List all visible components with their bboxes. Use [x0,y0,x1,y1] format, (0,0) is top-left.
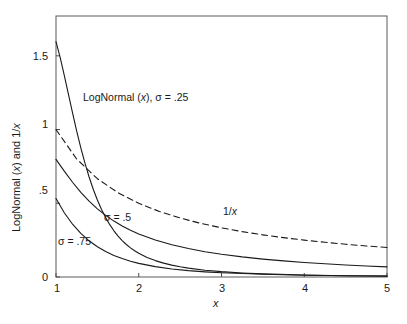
y-tick-label-0: 0 [10,272,48,283]
x-tick-label-5: 5 [382,283,392,294]
y-tick-label-15: 1.5 [10,51,48,62]
x-tick-label-2: 2 [134,283,144,294]
x-axis-title-text: x [213,297,219,309]
x-tick-label-4: 4 [300,283,310,294]
y-axis-title-var1: x [10,166,22,172]
y-axis-title: LogNormal (x) and 1/x [11,123,22,232]
annotation-lognormal-suffix: ), σ = .25 [146,91,188,103]
x-axis-title: x [213,298,219,309]
curve-0 [56,42,387,276]
y-axis-title-var2: x [10,123,22,129]
y-axis-title-suffix: ) and 1/ [10,129,22,166]
annotation-oneoverx-prefix: 1/ [223,205,232,217]
annotation-sigma-05: σ = .5 [104,212,131,223]
x-tick-label-1: 1 [52,283,62,294]
figure-lognormal-chart: 0 .5 1 1.5 1 2 3 4 5 x LogNormal (x) and… [0,0,407,324]
x-tick-label-3: 3 [217,283,227,294]
annotation-one-over-x: 1/x [223,206,237,217]
data-curves [56,42,387,276]
annotation-sigma-075: σ = .75 [58,236,91,247]
axis-frame [56,16,387,277]
curve-3 [56,130,387,248]
plot-area-svg [0,0,407,324]
annotation-lognormal-sigma-025: LogNormal (x), σ = .25 [83,92,188,103]
annotation-oneoverx-var: x [232,205,237,217]
x-axis-ticks [56,273,387,277]
y-axis-title-prefix: LogNormal ( [10,171,22,232]
annotation-lognormal-prefix: LogNormal ( [83,91,141,103]
